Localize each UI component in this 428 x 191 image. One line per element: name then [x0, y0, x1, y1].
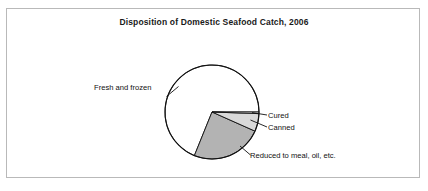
chart-figure: Disposition of Domestic Seafood Catch, 2… [0, 0, 428, 191]
pie-label-cured: Cured [268, 112, 289, 120]
pie-label-reduced-to-meal: Reduced to meal, oil, etc. [250, 152, 336, 160]
leader-line-reduced-to-meal [240, 146, 251, 155]
pie-label-fresh-and-frozen: Fresh and frozen [94, 84, 151, 92]
pie-label-canned: Canned [268, 124, 295, 132]
pie-chart [0, 0, 428, 191]
